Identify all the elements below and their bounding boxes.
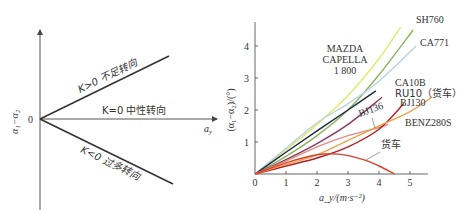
- leader-bj136: [372, 118, 375, 128]
- x-tick-label: 0: [253, 177, 258, 188]
- right-x-axis-label: a_y/(m·s⁻²): [319, 192, 365, 204]
- left-y-axis-label: α₁−α₂: [9, 109, 20, 134]
- label-ca10b: CA10B: [395, 77, 426, 88]
- right-chart: 012345 1234 (α₁−α₂)/(°) a_y/(m·s⁻²) MAZD…: [225, 14, 462, 204]
- left-origin-label: 0: [28, 114, 33, 125]
- y-tick-label: 3: [244, 73, 249, 84]
- right-y-axis-label: (α₁−α₂)/(°): [225, 88, 237, 131]
- label-benz280s: BENZ280S: [405, 117, 452, 128]
- y-tick-label: 4: [244, 41, 249, 52]
- leader-truck: [366, 152, 380, 160]
- label-bj136: BJ136: [357, 100, 385, 119]
- x-tick-label: 4: [377, 177, 382, 188]
- label-ca771: CA771: [420, 37, 449, 48]
- y-ticks: 1234: [244, 41, 258, 148]
- label-truck: 货车: [381, 138, 401, 150]
- label-bj130: BJ130: [400, 97, 426, 108]
- x-tick-label: 2: [315, 177, 320, 188]
- label-sh760: SH760: [416, 14, 444, 25]
- oversteer-line: [40, 119, 173, 184]
- oversteer-label: K<0 过多转向: [79, 144, 143, 183]
- x-tick-label: 5: [408, 177, 413, 188]
- label-mazda-1: MAZDA: [327, 43, 364, 54]
- x-tick-label: 1: [284, 177, 289, 188]
- label-mazda-2: CAPELLA: [323, 54, 369, 65]
- left-diagram: 0 α₁−α₂ ay K>0 不足转向 K=0 中性转向 K<0 过多转向: [9, 30, 217, 210]
- y-tick-label: 1: [244, 137, 249, 148]
- y-tick-label: 2: [244, 105, 249, 116]
- x-tick-label: 3: [346, 177, 351, 188]
- left-x-axis-label: ay: [204, 123, 213, 136]
- neutral-label: K=0 中性转向: [102, 104, 166, 116]
- label-mazda-3: 1 800: [334, 65, 357, 76]
- figure-canvas: 0 α₁−α₂ ay K>0 不足转向 K=0 中性转向 K<0 过多转向 01…: [0, 0, 466, 218]
